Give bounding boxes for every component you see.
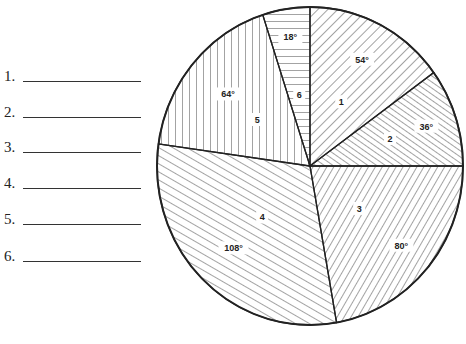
slice-degree-label: 64° [221, 89, 235, 99]
slice-degree-label: 108° [224, 243, 243, 253]
pie-slices [157, 7, 463, 325]
slice-number-label: 5 [255, 115, 260, 125]
slice-number-label: 2 [388, 134, 393, 144]
slice-number-label: 6 [297, 90, 302, 100]
slice-degree-label: 54° [355, 55, 369, 65]
slice-number-label: 3 [357, 204, 362, 214]
slice-degree-label: 36° [420, 122, 434, 132]
pie-slice-4 [157, 144, 337, 325]
slice-degree-label: 18° [284, 32, 298, 42]
pie-chart: 154°236°380°4108°564°618° [0, 0, 466, 344]
slice-degree-label: 80° [395, 241, 409, 251]
slice-number-label: 1 [339, 97, 344, 107]
slice-number-label: 4 [260, 212, 265, 222]
